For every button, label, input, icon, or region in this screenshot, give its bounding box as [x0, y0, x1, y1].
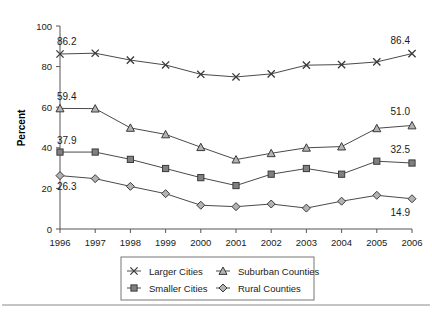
y-tick-label: 0 — [47, 224, 52, 235]
annotation-start-suburban-counties: 59.4 — [57, 91, 77, 102]
y-tick-label: 60 — [41, 102, 52, 113]
annotation-start-rural-counties: 26.3 — [57, 181, 77, 192]
annotation-end-smaller-cities: 32.5 — [391, 144, 411, 155]
legend-label-larger-cities: Larger Cities — [149, 266, 203, 277]
annotation-end-rural-counties: 14.9 — [391, 207, 411, 218]
legend-box — [121, 257, 314, 300]
marker-square — [339, 171, 345, 177]
chart-figure: Percent 020406080100 1996199719981999200… — [0, 0, 432, 313]
marker-square-legend — [131, 285, 137, 291]
x-tick-label: 2001 — [225, 237, 246, 248]
annotation-end-suburban-counties: 51.0 — [391, 106, 411, 117]
marker-square — [303, 165, 309, 171]
annotation-start-larger-cities: 86.2 — [57, 36, 77, 47]
marker-square — [374, 158, 380, 164]
legend-label-smaller-cities: Smaller Cities — [149, 283, 208, 294]
annotation-start-smaller-cities: 37.9 — [57, 135, 77, 146]
marker-square — [268, 171, 274, 177]
marker-square — [57, 149, 63, 155]
x-tick-label: 1997 — [85, 237, 106, 248]
x-tick-label: 2003 — [296, 237, 317, 248]
y-tick-label: 80 — [41, 61, 52, 72]
y-tick-label: 20 — [41, 183, 52, 194]
x-tick-label: 2002 — [261, 237, 282, 248]
marker-square — [127, 156, 133, 162]
legend-label-rural-counties: Rural Counties — [238, 283, 301, 294]
x-tick-label: 2005 — [366, 237, 387, 248]
marker-square — [198, 175, 204, 181]
x-tick-label: 2004 — [331, 237, 352, 248]
x-tick-labels-group: 1996199719981999200020012002200320042005… — [49, 237, 422, 248]
legend-group: Larger CitiesSuburban CountiesSmaller Ci… — [121, 257, 320, 300]
y-axis-title: Percent — [16, 109, 27, 146]
marker-square — [92, 149, 98, 155]
marker-square — [233, 182, 239, 188]
x-tick-label: 1999 — [155, 237, 176, 248]
marker-square — [163, 165, 169, 171]
marker-square — [409, 160, 415, 166]
y-tick-label: 100 — [36, 21, 52, 32]
y-axis-title-group: Percent — [16, 109, 27, 146]
legend-label-suburban-counties: Suburban Counties — [238, 266, 320, 277]
x-tick-label: 2000 — [190, 237, 211, 248]
annotation-end-larger-cities: 86.4 — [391, 35, 411, 46]
x-tick-label: 1998 — [120, 237, 141, 248]
y-tick-label: 40 — [41, 142, 52, 153]
x-tick-label: 1996 — [49, 237, 70, 248]
line-chart-canvas: Percent 020406080100 1996199719981999200… — [0, 0, 432, 313]
x-tick-label: 2006 — [401, 237, 422, 248]
